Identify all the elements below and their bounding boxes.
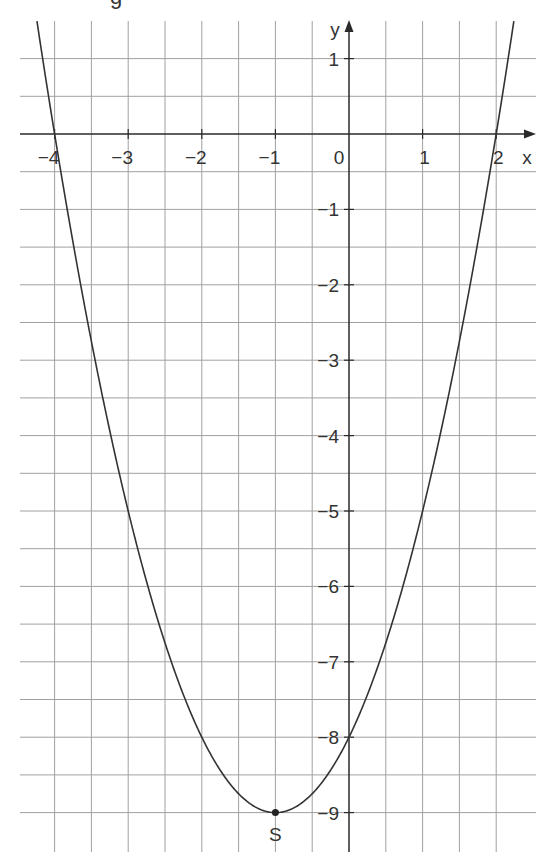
parabola-chart: g −4−3−2−1012xy1−1−2−3−4−5−6−7−8−9 S: [0, 0, 549, 866]
header-fragment: g: [110, 0, 122, 9]
y-tick-label: −8: [317, 727, 339, 748]
y-tick-label: −2: [317, 275, 339, 296]
y-tick-label: −7: [317, 652, 339, 673]
y-tick-label: 1: [328, 49, 339, 70]
tick-labels: −4−3−2−1012xy1−1−2−3−4−5−6−7−8−9: [38, 19, 532, 824]
x-tick-label: 1: [419, 147, 430, 168]
x-tick-label: −3: [111, 147, 133, 168]
x-tick-label: −2: [185, 147, 207, 168]
y-tick-label: −4: [317, 426, 339, 447]
x-axis-label: x: [522, 147, 532, 168]
vertex-point: [272, 809, 279, 816]
x-tick-label: 2: [493, 147, 504, 168]
grid: [20, 21, 536, 852]
y-axis-label: y: [330, 19, 340, 40]
y-tick-label: −3: [317, 350, 339, 371]
vertex-label: S: [269, 824, 282, 845]
y-axis-arrow-icon: [345, 20, 354, 32]
y-tick-label: −1: [317, 199, 339, 220]
x-axis-arrow-icon: [524, 130, 536, 139]
x-tick-label: 0: [334, 147, 345, 168]
y-tick-label: −5: [317, 501, 339, 522]
annotations: S: [269, 809, 282, 845]
y-tick-label: −9: [317, 803, 339, 824]
y-tick-label: −6: [317, 576, 339, 597]
x-tick-label: −1: [259, 147, 281, 168]
